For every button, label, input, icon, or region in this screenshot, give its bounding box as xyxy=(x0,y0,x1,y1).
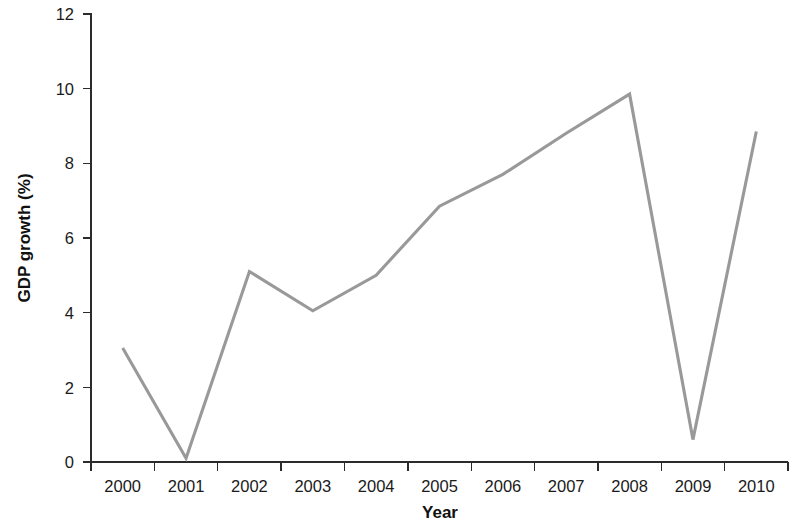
x-tick-label: 2010 xyxy=(738,477,775,495)
y-tick-label: 6 xyxy=(65,229,74,247)
x-axis-title: Year xyxy=(422,503,458,522)
x-tick-label: 2005 xyxy=(421,477,458,495)
x-tick-label: 2002 xyxy=(231,477,268,495)
x-tick-label: 2001 xyxy=(168,477,205,495)
y-tick-label: 2 xyxy=(65,379,74,397)
y-tick-label: 10 xyxy=(56,80,74,98)
chart-background xyxy=(0,0,794,530)
chart-canvas: 12 10 8 6 4 2 0 2000 2001 2002 xyxy=(0,0,794,530)
y-tick-label: 8 xyxy=(65,154,74,172)
x-tick-label: 2008 xyxy=(611,477,648,495)
x-tick-label: 2009 xyxy=(675,477,712,495)
y-tick-label: 12 xyxy=(56,5,74,23)
y-tick-label: 4 xyxy=(65,304,74,322)
x-tick-label: 2000 xyxy=(104,477,141,495)
x-tick-label: 2006 xyxy=(485,477,522,495)
gdp-growth-line-chart: 12 10 8 6 4 2 0 2000 2001 2002 xyxy=(0,0,794,530)
y-axis-title: GDP growth (%) xyxy=(15,173,34,302)
x-tick-label: 2003 xyxy=(294,477,331,495)
x-tick-label: 2004 xyxy=(358,477,395,495)
y-tick-label: 0 xyxy=(65,453,74,471)
x-tick-label: 2007 xyxy=(548,477,585,495)
